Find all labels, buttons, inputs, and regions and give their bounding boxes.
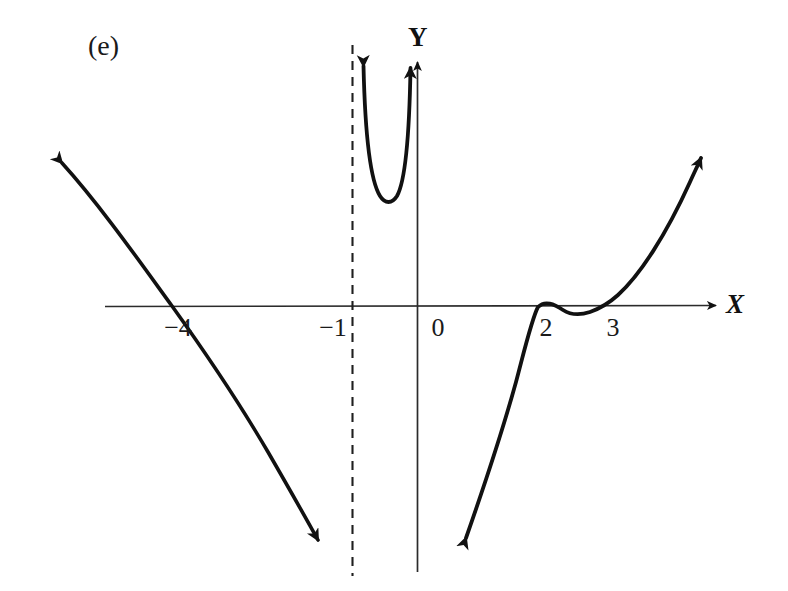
curve-left-branch	[62, 163, 318, 540]
figure-canvas: (e) X Y −4 −1 0 2 3	[0, 0, 788, 591]
panel-label: (e)	[88, 30, 119, 62]
curve-middle-branch	[364, 66, 411, 202]
x-tick-label-three: 3	[607, 313, 620, 343]
x-tick-label-neg4: −4	[164, 313, 192, 343]
x-tick-label-zero: 0	[432, 313, 445, 343]
x-tick-label-neg1: −1	[319, 313, 347, 343]
curve-right-branch	[466, 158, 701, 538]
function-graph-svg	[0, 0, 788, 591]
y-axis-label: Y	[408, 22, 428, 53]
x-axis-line	[105, 306, 716, 307]
x-axis-label: X	[726, 289, 744, 320]
x-tick-label-two: 2	[540, 313, 553, 343]
